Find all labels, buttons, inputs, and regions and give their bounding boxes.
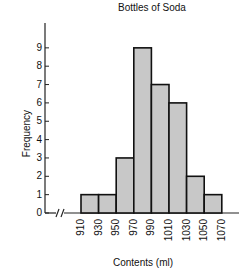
x-tick-label: 990 [145,219,156,245]
y-tick-label: 9 [30,42,42,53]
y-tick-label: 2 [30,170,42,181]
x-tick-label: 970 [128,219,139,245]
x-tick-label: 1070 [216,219,227,245]
x-tick-label: 1010 [163,219,174,245]
histogram-bar [81,195,99,213]
y-tick-label: 4 [30,134,42,145]
histogram-bar [151,85,169,213]
y-tick-label: 0 [30,207,42,218]
histogram-bar [99,195,117,213]
x-tick-label: 1030 [181,219,192,245]
histogram-bar [187,176,205,213]
histogram-bar [134,48,152,213]
histogram-bar [204,195,222,213]
histogram-bar [116,158,134,213]
histogram-bar [169,103,187,213]
y-tick-label: 3 [30,152,42,163]
y-tick-label: 7 [30,79,42,90]
x-tick-label: 930 [93,219,104,245]
y-tick-label: 6 [30,97,42,108]
axis-break-mark [56,209,59,217]
axis-break-mark [61,209,64,217]
y-tick-label: 8 [30,60,42,71]
x-tick-label: 910 [75,219,86,245]
y-tick-label: 1 [30,189,42,200]
x-tick-label: 1050 [198,219,209,245]
y-tick-label: 5 [30,115,42,126]
x-tick-label: 950 [110,219,121,245]
